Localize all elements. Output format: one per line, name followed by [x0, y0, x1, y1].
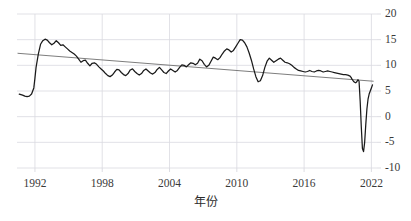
x-axis-tick-label: 2016: [293, 178, 316, 190]
chart-figure: -10-505101520 199219982004201020162022 年…: [0, 0, 411, 221]
y-axis-tick-label: -10: [385, 162, 400, 174]
y-axis-tick-label: 10: [385, 59, 397, 71]
x-axis-tick-label: 2022: [360, 178, 383, 190]
y-axis-tick-label: 15: [385, 34, 397, 46]
x-axis-tick-label: 2010: [225, 178, 248, 190]
y-axis-tick-label: 0: [385, 111, 391, 123]
gridlines: [17, 14, 377, 168]
x-axis-title: 年份: [0, 196, 411, 208]
x-axis-tick-label: 1998: [91, 178, 114, 190]
x-axis-tick-label: 2004: [158, 178, 181, 190]
trend-line: [18, 53, 374, 81]
chart-plot-area: [0, 0, 411, 221]
y-axis-tick-label: 20: [385, 8, 397, 20]
x-axis-tick-label: 1992: [23, 178, 46, 190]
data-series-line: [19, 39, 372, 151]
axis-tick-marks: [35, 14, 381, 172]
y-axis-tick-label: -5: [385, 136, 395, 148]
y-axis-tick-label: 5: [385, 85, 391, 97]
